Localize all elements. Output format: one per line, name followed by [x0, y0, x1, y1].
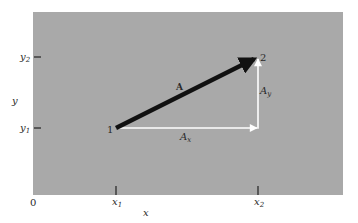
point-2-label: 2	[260, 52, 266, 63]
y1-tick-label: y1	[19, 122, 30, 135]
point-1-label: 1	[107, 124, 113, 135]
y-axis-label: y	[11, 95, 18, 106]
x-axis-label: x	[143, 207, 149, 218]
x2-tick-label: x2	[254, 196, 265, 209]
origin-label: 0	[30, 197, 36, 208]
vector-a-label: A	[175, 82, 184, 92]
x1-tick-label: x1	[112, 196, 122, 209]
y2-tick-label: y2	[19, 51, 31, 64]
vector-diagram: 1 2 A Ax Ay y2 y y1 0 x1 x x2	[0, 0, 358, 223]
plot-area	[33, 12, 343, 195]
